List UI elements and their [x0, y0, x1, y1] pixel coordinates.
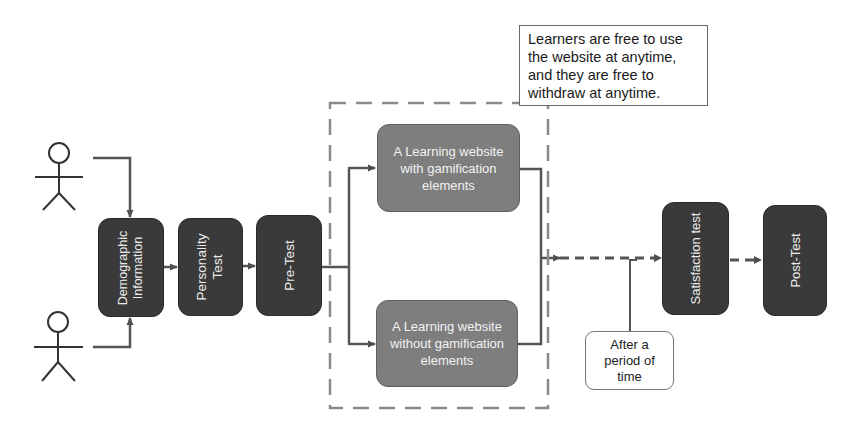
- note-line: withdraw at anytime.: [528, 84, 699, 102]
- note-line: and they are free to: [528, 66, 699, 84]
- step-satisfaction-test: Satisfaction test: [662, 202, 729, 315]
- group-label: elements: [390, 352, 504, 369]
- annotation-connector: [630, 260, 637, 331]
- step-label: Satisfaction test: [688, 213, 703, 305]
- group-with-gamification: A Learning website with gamification ele…: [377, 124, 520, 212]
- group-label: with gamification: [394, 160, 504, 177]
- group-label: without gamification: [390, 335, 504, 352]
- annotation-line: time: [604, 369, 655, 385]
- step-pre-test: Pre-Test: [256, 215, 322, 316]
- note-line: Learners are free to use: [528, 30, 699, 48]
- actor-icon: [35, 143, 83, 210]
- step-label: Pre-Test: [281, 240, 296, 290]
- group-label: A Learning website: [390, 318, 504, 335]
- annotation-after-period: After a period of time: [585, 331, 674, 390]
- annotation-line: period of: [604, 353, 655, 369]
- step-label: Information: [131, 230, 146, 304]
- step-label: Post-Test: [788, 233, 803, 287]
- actor-icon: [34, 312, 83, 381]
- note-box: Learners are free to use the website at …: [519, 25, 708, 106]
- step-demographic-information: Demographic Information: [98, 218, 164, 317]
- annotation-line: After a: [604, 337, 655, 353]
- step-label: Personality: [195, 234, 211, 301]
- step-personality-test: Personality Test: [178, 218, 243, 316]
- step-label: Test: [211, 234, 227, 301]
- group-label: elements: [394, 177, 504, 194]
- step-label: Demographic: [116, 230, 131, 304]
- step-post-test: Post-Test: [763, 205, 827, 316]
- note-line: the website at anytime,: [528, 48, 699, 66]
- group-label: A Learning website: [394, 143, 504, 160]
- group-without-gamification: A Learning website without gamification …: [376, 300, 518, 387]
